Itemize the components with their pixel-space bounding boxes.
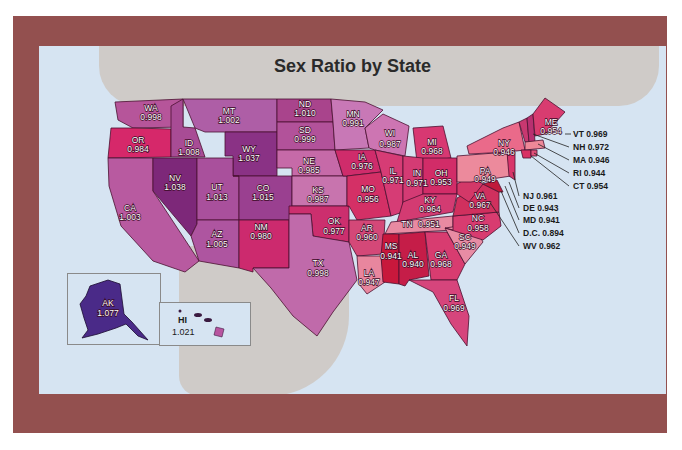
svg-text:IN: IN	[413, 168, 422, 178]
svg-text:0.956: 0.956	[357, 194, 379, 204]
map-panel: Sex Ratio by State	[39, 46, 666, 394]
svg-text:0.991: 0.991	[342, 118, 364, 128]
svg-text:1.005: 1.005	[206, 239, 228, 249]
state-FL	[409, 280, 469, 346]
svg-text:0.984: 0.984	[127, 144, 149, 154]
svg-text:0.987: 0.987	[307, 194, 329, 204]
svg-text:0.998: 0.998	[307, 268, 329, 278]
svg-text:1.010: 1.010	[294, 108, 316, 118]
alaska-inset: AK 1.077	[67, 273, 161, 345]
svg-text:1.015: 1.015	[252, 192, 274, 202]
svg-text:0.980: 0.980	[250, 231, 272, 241]
svg-text:WV 0.962: WV 0.962	[523, 241, 561, 251]
svg-text:0.958: 0.958	[467, 223, 489, 233]
svg-text:1.037: 1.037	[238, 153, 260, 163]
svg-text:AK: AK	[102, 298, 114, 308]
svg-text:MA 0.946: MA 0.946	[573, 155, 610, 165]
svg-text:AZ: AZ	[212, 229, 223, 239]
svg-text:0.998: 0.998	[140, 112, 162, 122]
svg-text:0.940: 0.940	[402, 259, 424, 269]
svg-text:0.949: 0.949	[454, 241, 476, 251]
svg-text:1.013: 1.013	[206, 192, 228, 202]
svg-text:NJ 0.961: NJ 0.961	[523, 191, 558, 201]
svg-text:0.941: 0.941	[380, 251, 402, 261]
svg-text:0.985: 0.985	[298, 165, 320, 175]
svg-text:D.C. 0.894: D.C. 0.894	[523, 228, 564, 238]
state-MA	[525, 140, 545, 150]
svg-text:1.003: 1.003	[119, 212, 141, 222]
svg-text:0.969: 0.969	[443, 303, 465, 313]
svg-text:0.960: 0.960	[356, 232, 378, 242]
svg-text:TN: TN	[401, 219, 412, 229]
map-frame: Sex Ratio by State	[13, 16, 667, 433]
svg-text:0.987: 0.987	[379, 139, 401, 149]
svg-text:RI 0.944: RI 0.944	[573, 168, 605, 178]
svg-text:0.946: 0.946	[493, 147, 515, 157]
svg-text:1.077: 1.077	[97, 308, 119, 318]
svg-text:0.968: 0.968	[430, 259, 452, 269]
svg-text:1.038: 1.038	[164, 182, 186, 192]
svg-text:VT 0.969: VT 0.969	[573, 129, 608, 139]
svg-text:OK: OK	[328, 216, 341, 226]
svg-text:0.971: 0.971	[406, 178, 428, 188]
svg-text:0.949: 0.949	[474, 174, 496, 184]
svg-text:MO: MO	[361, 184, 375, 194]
svg-text:TX: TX	[313, 258, 324, 268]
svg-text:0.964: 0.964	[419, 204, 441, 214]
svg-text:UT: UT	[211, 182, 222, 192]
svg-text:0.977: 0.977	[323, 226, 345, 236]
svg-text:0.967: 0.967	[469, 200, 491, 210]
svg-text:MS: MS	[385, 241, 398, 251]
svg-text:FL: FL	[449, 293, 459, 303]
svg-text:0.971: 0.971	[382, 175, 404, 185]
svg-text:0.976: 0.976	[351, 161, 373, 171]
svg-text:0.999: 0.999	[294, 134, 316, 144]
svg-text:HI: HI	[178, 315, 187, 325]
svg-text:0.951: 0.951	[418, 219, 440, 229]
svg-text:1.002: 1.002	[218, 115, 240, 125]
state-CT	[521, 150, 531, 158]
svg-text:NC: NC	[472, 213, 484, 223]
svg-text:DE 0.943: DE 0.943	[523, 203, 559, 213]
svg-text:CT 0.954: CT 0.954	[573, 181, 608, 191]
svg-text:WI: WI	[385, 128, 395, 138]
svg-text:0.954: 0.954	[540, 126, 562, 136]
svg-text:MD 0.941: MD 0.941	[523, 215, 560, 225]
state-HI	[214, 327, 224, 337]
svg-text:1.021: 1.021	[172, 327, 195, 337]
svg-text:0.968: 0.968	[421, 146, 443, 156]
hawaii-inset: HI 1.021	[159, 302, 251, 346]
svg-text:1.008: 1.008	[178, 147, 200, 157]
svg-text:0.947: 0.947	[358, 277, 380, 287]
svg-text:0.953: 0.953	[430, 177, 452, 187]
svg-text:NH 0.972: NH 0.972	[573, 142, 609, 152]
